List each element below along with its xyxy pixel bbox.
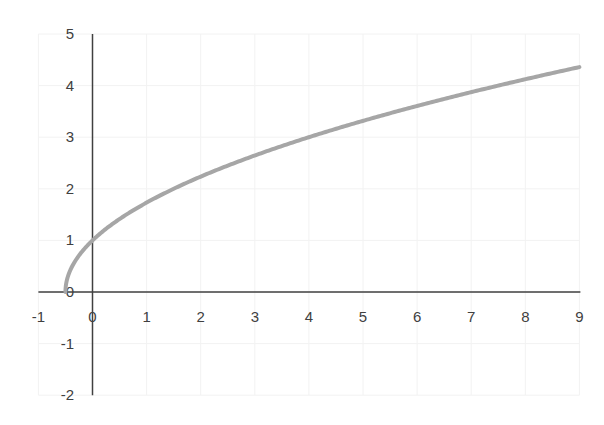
- x-tick-label: 1: [142, 308, 150, 325]
- x-tick-label: 0: [88, 308, 96, 325]
- x-tick-label: 6: [413, 308, 421, 325]
- x-axis-tick-labels: -10123456789: [32, 308, 584, 325]
- x-tick-label: 2: [197, 308, 205, 325]
- y-tick-label: 1: [66, 231, 74, 248]
- x-tick-label: 7: [467, 308, 475, 325]
- y-axis-tick-labels: -2-1012345: [61, 25, 74, 403]
- y-tick-label: 4: [66, 77, 74, 94]
- y-tick-label: -2: [61, 386, 74, 403]
- y-tick-label: 2: [66, 180, 74, 197]
- y-tick-label: 5: [66, 25, 74, 42]
- chart: -10123456789 -2-1012345: [0, 0, 604, 425]
- data-series-curve: [65, 67, 579, 292]
- x-tick-label: -1: [32, 308, 45, 325]
- y-tick-label: -1: [61, 335, 74, 352]
- x-tick-label: 3: [251, 308, 259, 325]
- x-tick-label: 8: [521, 308, 529, 325]
- x-tick-label: 5: [359, 308, 367, 325]
- x-tick-label: 9: [575, 308, 583, 325]
- gridlines: [38, 34, 579, 395]
- x-tick-label: 4: [305, 308, 313, 325]
- y-tick-label: 3: [66, 128, 74, 145]
